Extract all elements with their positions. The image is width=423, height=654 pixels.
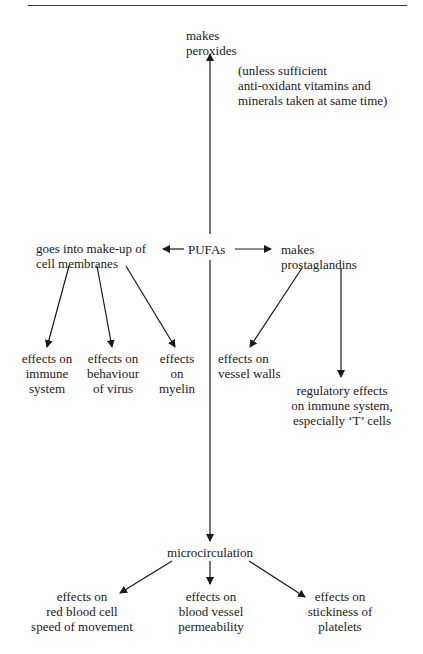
node-myelin: effects on myelin <box>154 351 200 396</box>
node-behaviour-virus: effects on behaviour of virus <box>82 351 144 396</box>
node-red-blood-cell: effects on red blood cell speed of movem… <box>22 589 142 634</box>
node-platelets: effects on stickiness of platelets <box>300 589 380 634</box>
node-pufas: PUFAs <box>188 242 225 257</box>
node-prostaglandins: makes prostaglandins <box>281 242 357 272</box>
node-makes-peroxides: makes peroxides <box>186 28 237 58</box>
peroxides-note: (unless sufficient anti-oxidant vitamins… <box>238 63 387 108</box>
node-vessel-walls: effects on vessel walls <box>218 351 280 381</box>
node-cell-membranes: goes into make-up of cell membranes <box>36 241 146 271</box>
node-regulatory-immune: regulatory effects on immune system, esp… <box>280 383 404 428</box>
node-vessel-permeability: effects on blood vessel permeability <box>166 589 256 634</box>
node-microcirculation: microcirculation <box>160 545 260 560</box>
node-immune-system: effects on immune system <box>16 351 78 396</box>
